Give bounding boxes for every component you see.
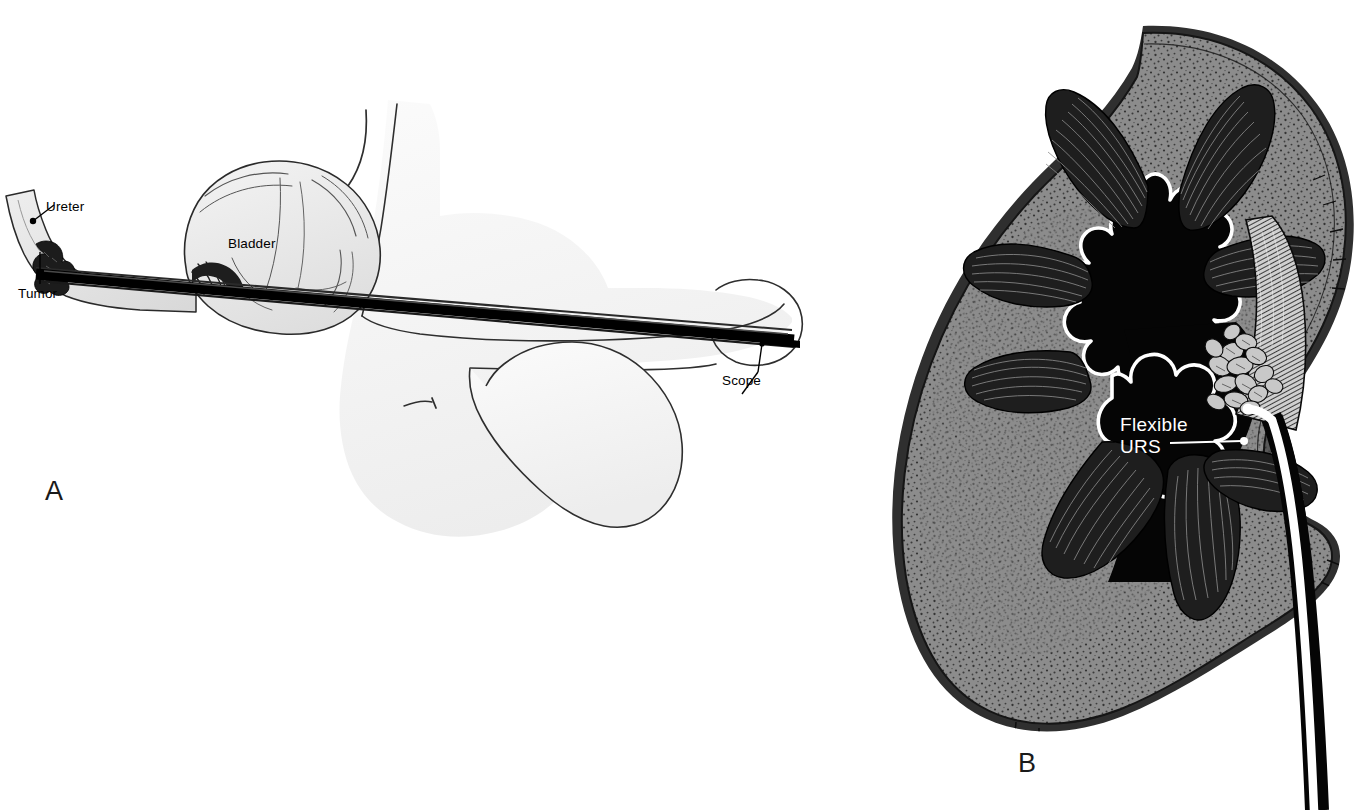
panel-b-letter: B	[1018, 750, 1037, 777]
label-ureter: Ureter	[46, 199, 84, 215]
label-bladder: Bladder	[228, 236, 276, 252]
panel-b-illustration	[880, 0, 1372, 810]
panel-b: B Flexible URS	[880, 0, 1372, 810]
label-flexible-urs: Flexible URS	[1120, 414, 1188, 459]
figure-container: A Ureter Tumor Bladder Scope	[0, 0, 1372, 810]
panel-a-illustration	[0, 0, 880, 810]
label-scope: Scope	[722, 373, 761, 389]
label-tumor: Tumor	[18, 286, 57, 302]
scope-tip	[1243, 404, 1254, 415]
label-flexible-urs-line1: Flexible	[1120, 414, 1188, 435]
panel-a: A Ureter Tumor Bladder Scope	[0, 0, 880, 810]
label-flexible-urs-line2: URS	[1120, 436, 1188, 458]
panel-a-letter: A	[45, 478, 64, 505]
